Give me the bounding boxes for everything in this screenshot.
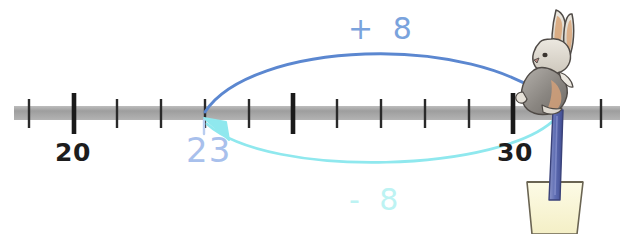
current-value-label: 23 xyxy=(186,133,231,167)
rabbit-illustration xyxy=(516,10,574,115)
tick-label-20: 20 xyxy=(55,140,91,165)
illustration-layer xyxy=(0,0,627,234)
jump-forward-label: + 8 xyxy=(348,14,417,44)
tick-label-30: 30 xyxy=(497,140,533,165)
jump-backward-label: - 8 xyxy=(349,185,403,215)
blue-post xyxy=(549,110,563,200)
number-line-diagram: 20 30 23 + 8 - 8 xyxy=(0,0,627,234)
